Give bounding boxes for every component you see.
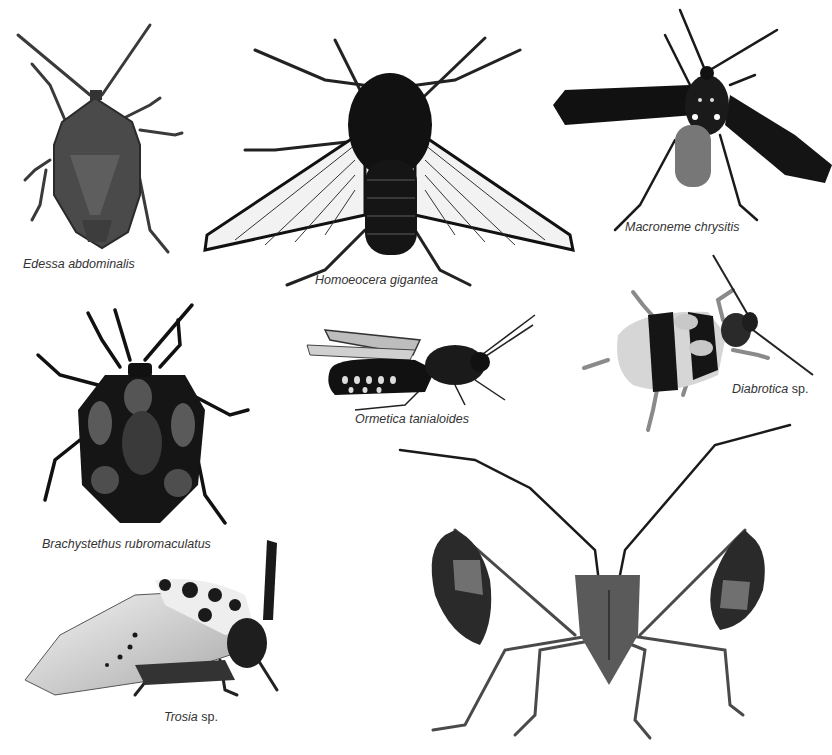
caption-edessa: Edessa abdominalis xyxy=(23,257,135,271)
specimen-leaf-footed-bug-image xyxy=(395,420,832,755)
caption-macroneme: Macroneme chrysitis xyxy=(625,220,740,234)
specimen-diabrotica-image xyxy=(578,250,818,435)
caption-diabrotica: Diabrotica sp. xyxy=(732,382,808,396)
specimen-trosia-image xyxy=(15,535,295,700)
caption-trosia: Trosia sp. xyxy=(164,710,218,724)
specimen-ormetica-image xyxy=(295,310,540,410)
insect-plate: Edessa abdominalis Homoeocera gigantea xyxy=(0,0,832,755)
specimen-edessa-image xyxy=(10,20,190,255)
caption-homoeocera: Homoeocera gigantea xyxy=(315,273,438,287)
specimen-homoeocera-image xyxy=(195,30,585,290)
specimen-macroneme-image xyxy=(545,5,832,230)
specimen-brachystethus-image xyxy=(20,305,260,530)
